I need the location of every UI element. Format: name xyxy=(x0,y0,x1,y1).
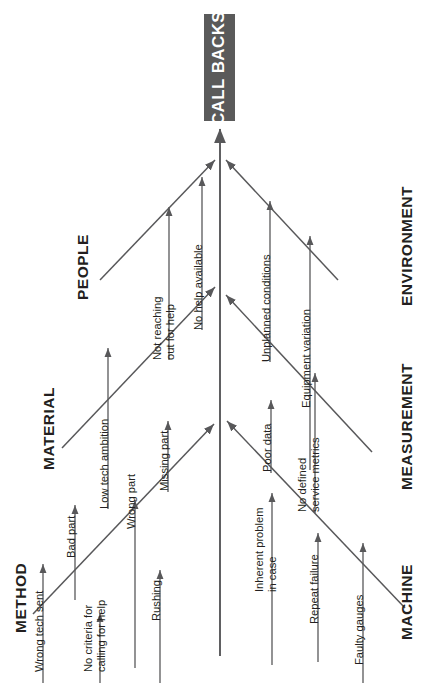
cause-label-inherent-problem-in-case: Inherent problem in case xyxy=(253,507,279,592)
cause-label-wrong-tech-sent: Wrong tech sent xyxy=(33,591,46,672)
cause-label-bad-part: Bad part xyxy=(65,516,78,558)
cause-label-poor-data: Poor data xyxy=(261,423,274,472)
cause-label-no-help-available: No help available xyxy=(192,244,205,330)
category-label-machine: MACHINE xyxy=(398,564,416,640)
effect-head-label: CALL BACKS xyxy=(210,10,230,124)
category-label-people: PEOPLE xyxy=(74,234,92,300)
category-label-measurement: MEASUREMENT xyxy=(398,363,416,490)
category-label-material: MATERIAL xyxy=(40,387,58,470)
cause-label-repeat-failure: Repeat failure xyxy=(308,554,321,624)
category-label-method: METHOD xyxy=(12,563,30,633)
cause-label-low-tech-ambition: Low tech ambition xyxy=(98,419,111,509)
effect-head-box: CALL BACKS xyxy=(204,14,235,121)
cause-label-no-defined-service-metrics: No defined service metrics xyxy=(296,437,322,512)
fishbone-diagram-canvas: CALL BACKS PEOPLE MATERIAL METHOD ENVIRO… xyxy=(0,0,436,683)
cause-label-faulty-gauges: Faulty gauges xyxy=(353,595,366,665)
category-label-environment: ENVIRONMENT xyxy=(398,186,416,306)
branch-rib-method xyxy=(33,424,214,614)
cause-label-wrong-part: Wrong part xyxy=(125,474,138,529)
cause-label-no-criteria-for-calling-for-help: No criteria for calling for help xyxy=(82,600,108,672)
cause-label-equipment-variation: Equipment variation xyxy=(300,309,313,408)
cause-label-rushing: Rushing xyxy=(150,580,163,621)
cause-label-unplanned-conditions: Unplanned conditions xyxy=(260,254,273,362)
cause-label-missing-part: Missing part xyxy=(158,431,171,491)
branch-rib-measurement xyxy=(226,295,372,452)
cause-label-not-reaching-out-for-help: Not reaching out for help xyxy=(151,297,177,360)
branch-rib-environment xyxy=(226,160,338,280)
